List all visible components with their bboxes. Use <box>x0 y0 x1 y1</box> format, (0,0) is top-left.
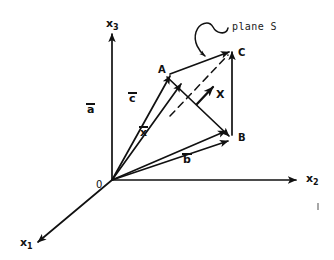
vector-label-b: b <box>183 153 191 165</box>
plane-s-leader <box>195 23 228 56</box>
vector-label-x: x <box>140 126 147 138</box>
marker-label-x: X <box>216 89 224 100</box>
axis-label-x2: x2 <box>306 173 319 187</box>
axis-label-x3: x3 <box>106 18 119 32</box>
point-label-c: C <box>238 48 245 58</box>
point-label-b: B <box>238 133 246 143</box>
vector-diagram-graphic <box>0 0 334 260</box>
vector-label-c: c <box>129 92 136 104</box>
vector-b <box>112 141 228 180</box>
point-label-a: A <box>158 65 166 75</box>
annotation-plane-s: plane S <box>232 22 277 32</box>
vector-label-a: a <box>87 103 94 115</box>
axis-label-x1: x1 <box>20 237 33 251</box>
point-label-origin: 0 <box>96 180 102 190</box>
marker-arrow-x <box>197 87 213 104</box>
figure-canvas: x1 x2 x3 A B C 0 a c x b X plane S <box>0 0 334 260</box>
scan-artifact-speck <box>317 203 319 210</box>
